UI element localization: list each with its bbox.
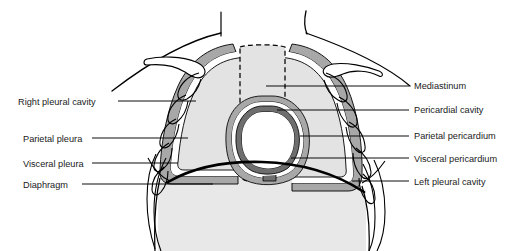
neck-line-right [305, 11, 307, 34]
costal-line-left-a [374, 160, 385, 251]
label-right-pleural-cavity: Right pleural cavity [18, 97, 96, 107]
heart-chamber [242, 112, 294, 168]
figure-canvas: Right pleural cavity Parietal pleura Vis… [0, 0, 521, 251]
heart-apex-notch [263, 175, 276, 181]
label-parietal-pleura: Parietal pleura [23, 134, 82, 144]
label-parietal-pericardium: Parietal pericardium [414, 131, 496, 141]
label-mediastinum: Mediastinum [414, 81, 466, 91]
label-left-pleural-cavity: Left pleural cavity [414, 177, 486, 187]
label-visceral-pleura: Visceral pleura [23, 159, 84, 169]
label-visceral-pericardium: Visceral pericardium [414, 154, 497, 164]
label-diaphragm: Diaphragm [23, 180, 68, 190]
label-pericardial-cavity: Pericardial cavity [414, 105, 483, 115]
thorax-diagram [0, 0, 521, 251]
